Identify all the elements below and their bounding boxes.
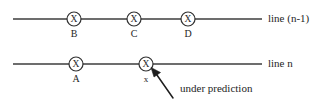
row-label-line-n-minus-1: line (n-1) [268,12,310,25]
node-x-glyph: X [143,59,150,69]
node-d-label: D [184,28,191,39]
node-x: X x [139,57,153,84]
annotation-arrow-head [151,68,161,78]
node-b: X B [67,12,81,39]
node-a-glyph: X [73,59,80,69]
annotation-arrow-shaft [155,72,174,99]
node-b-glyph: X [71,14,78,24]
node-c: X C [127,12,141,39]
node-a: X A [69,57,83,84]
diagram-canvas: X B X C X D line (n-1) X A [0,0,330,100]
under-prediction-figure: X B X C X D line (n-1) X A [0,0,330,100]
node-a-label: A [72,73,80,84]
annotation-caption: under prediction [180,82,253,94]
node-c-glyph: X [131,14,138,24]
node-b-label: B [71,28,78,39]
node-d: X D [181,12,195,39]
row-label-line-n: line n [268,57,293,69]
node-x-label: x [144,74,149,84]
under-prediction-annotation: under prediction [151,68,253,99]
row-line-n-minus-1: X B X C X D line (n-1) [13,12,310,39]
node-d-glyph: X [185,14,192,24]
node-c-label: C [131,28,138,39]
